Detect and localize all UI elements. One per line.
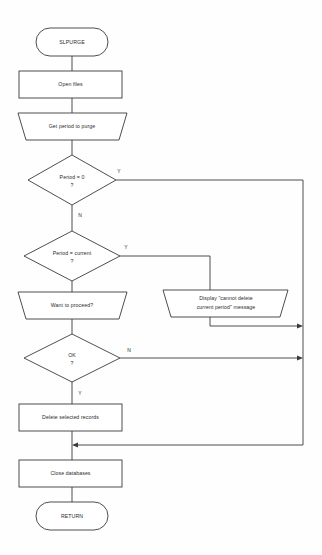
node-open-files-label: Open files — [58, 81, 83, 87]
node-open-files[interactable]: Open files — [19, 71, 122, 98]
node-period-current-label-line2: ? — [71, 258, 74, 264]
node-start[interactable]: SLPURGE — [36, 28, 108, 56]
branch-label-period-current-yes: Y — [124, 244, 128, 250]
node-start-label: SLPURGE — [59, 39, 85, 45]
branch-label-period-zero-yes: Y — [117, 168, 121, 174]
node-return-label: RETURN — [61, 513, 83, 519]
node-ok[interactable]: OK ? — [24, 334, 120, 382]
node-display-message-label-line1: Display "cannot delete — [199, 295, 253, 301]
node-display-message[interactable]: Display "cannot delete current period" m… — [163, 290, 288, 317]
node-want-proceed-label: Want to proceed? — [51, 302, 93, 308]
branch-label-period-zero-no: N — [78, 212, 82, 218]
node-return[interactable]: RETURN — [36, 502, 108, 530]
node-want-proceed[interactable]: Want to proceed? — [18, 292, 127, 319]
node-period-zero-label-line1: Period = 0 — [60, 174, 85, 180]
node-get-period[interactable]: Get period to purge — [18, 113, 127, 140]
node-close-databases[interactable]: Close databases — [19, 460, 122, 487]
node-close-databases-label: Close databases — [50, 470, 90, 476]
node-delete-records[interactable]: Delete selected records — [19, 404, 122, 431]
branch-label-ok-yes: Y — [78, 390, 82, 396]
node-display-message-label-line2: current period" message — [197, 304, 256, 310]
node-period-current-label-line1: Period = current — [53, 250, 92, 256]
edge-period-current-yes-to-display — [120, 256, 210, 290]
flowchart-canvas: SLPURGE Open files Get period to purge P… — [0, 0, 322, 555]
node-ok-label-line2: ? — [71, 360, 74, 366]
node-get-period-label: Get period to purge — [49, 123, 96, 129]
branch-label-ok-no: N — [127, 347, 131, 353]
arrowhead-ok-no-to-bus — [297, 356, 303, 361]
edge-display-to-bus — [210, 317, 300, 326]
node-period-zero[interactable]: Period = 0 ? — [28, 155, 116, 205]
node-period-current[interactable]: Period = current ? — [24, 231, 120, 281]
node-delete-records-label: Delete selected records — [42, 414, 99, 420]
flowchart-svg: SLPURGE Open files Get period to purge P… — [0, 0, 322, 555]
arrowhead-display-to-bus — [297, 324, 303, 329]
node-ok-label-line1: OK — [68, 352, 76, 358]
arrowhead-bus-to-trunk — [72, 443, 78, 448]
node-period-zero-label-line2: ? — [71, 182, 74, 188]
